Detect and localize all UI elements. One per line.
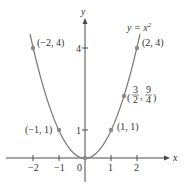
svg-text:): ) — [153, 92, 156, 104]
svg-text:4: 4 — [146, 94, 151, 105]
label-3half-9quarter: ( 3 2 , 9 4 ) — [127, 84, 156, 105]
point-2-4 — [135, 46, 139, 50]
svg-text:2: 2 — [133, 94, 138, 105]
tick-x-2: 2 — [134, 162, 139, 173]
label-2-4: (2, 4) — [142, 37, 164, 49]
svg-text:(: ( — [127, 92, 131, 104]
point-neg1-1 — [57, 128, 61, 132]
parabola-chart: y x y = x2 (−2, 4) (2, 4) (−1, 1) (1, 1)… — [0, 0, 190, 187]
x-axis-arrow-icon — [164, 156, 170, 161]
x-axis-label: x — [172, 152, 178, 163]
label-1-1: (1, 1) — [117, 121, 139, 133]
curve-label: y = x2 — [126, 21, 152, 33]
point-1-1 — [109, 128, 113, 132]
label-neg2-4: (−2, 4) — [37, 37, 64, 49]
tick-x-neg2: −2 — [28, 162, 39, 173]
point-3half-9quarter — [122, 94, 126, 98]
tick-y-1: 1 — [76, 125, 81, 136]
tick-x-1: 1 — [108, 162, 113, 173]
tick-y-4: 4 — [76, 43, 81, 54]
svg-text:,: , — [140, 90, 143, 101]
tick-x-0: 0 — [77, 162, 82, 173]
y-axis-arrow-icon — [83, 18, 88, 24]
point-neg2-4 — [31, 46, 35, 50]
label-neg1-1: (−1, 1) — [25, 124, 52, 136]
point-origin — [83, 156, 87, 160]
y-axis-label: y — [80, 6, 86, 17]
tick-x-neg1: −1 — [54, 162, 65, 173]
